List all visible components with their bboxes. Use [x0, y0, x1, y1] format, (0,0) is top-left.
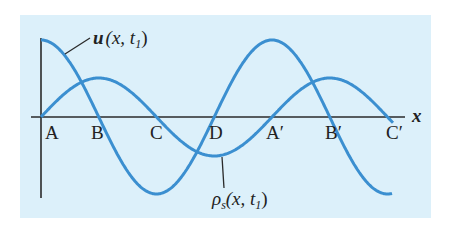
point-label-b-prime: B′: [325, 122, 342, 143]
x-axis-label: x: [411, 105, 422, 126]
point-label-a: A: [45, 122, 59, 143]
density-leader-line: [222, 157, 224, 188]
point-label-b: B: [91, 122, 104, 143]
displacement-label: u(x, t1): [93, 27, 147, 51]
point-label-d: D: [209, 122, 223, 143]
displacement-leader-line: [65, 38, 90, 54]
point-labels: ABCDA′B′C′: [45, 122, 403, 143]
point-label-a-prime: A′: [266, 122, 284, 143]
density-label: ρs(x, t1): [211, 188, 268, 212]
point-label-c-prime: C′: [386, 122, 403, 143]
wave-diagram: x ABCDA′B′C′ u(x, t1) ρs(x, t1): [0, 0, 450, 230]
point-label-c: C: [150, 122, 163, 143]
